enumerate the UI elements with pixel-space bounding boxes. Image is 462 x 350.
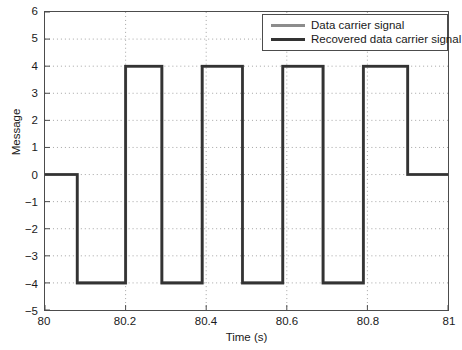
signal-traces [45,12,448,310]
y-tick-label: −3 [25,250,38,262]
y-tick-label: 4 [32,60,38,72]
x-axis-tick-labels: 8080.280.480.680.881 [44,315,449,331]
legend-line-swatch [271,38,305,41]
y-tick-label: 5 [32,32,38,44]
x-tick-label: 80.4 [195,315,217,327]
x-axis-label: Time (s) [44,331,449,343]
x-tick-label: 81 [443,315,456,327]
legend-label: Data carrier signal [311,18,404,32]
x-tick-label: 80.2 [114,315,136,327]
plot-area [44,11,449,311]
signal-trace [45,66,448,283]
figure-chart: Message −5−4−3−2−10123456 8080.280.480.6… [0,0,462,350]
y-tick-label: −2 [25,223,38,235]
y-tick-label: 1 [32,141,38,153]
legend-line-swatch [271,24,305,27]
legend-label: Recovered data carrier signal [311,32,461,46]
chart-legend: Data carrier signalRecovered data carrie… [262,14,448,51]
legend-item: Recovered data carrier signal [267,32,443,46]
y-axis-tick-labels: −5−4−3−2−10123456 [0,11,38,311]
x-tick-label: 80 [38,315,51,327]
y-tick-label: −1 [25,196,38,208]
y-tick-label: 2 [32,114,38,126]
y-tick-label: −5 [25,305,38,317]
signal-trace [45,66,448,283]
y-tick-label: 0 [32,169,38,181]
y-tick-label: −4 [25,278,38,290]
y-tick-label: 6 [32,5,38,17]
legend-item: Data carrier signal [267,18,443,32]
y-tick-label: 3 [32,87,38,99]
x-tick-label: 80.8 [357,315,379,327]
x-tick-label: 80.6 [276,315,298,327]
